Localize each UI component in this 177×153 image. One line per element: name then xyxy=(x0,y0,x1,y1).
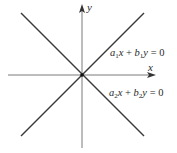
y-axis-label: y xyxy=(87,2,92,13)
rhs-1: = 0 xyxy=(148,47,164,58)
line-1-equation: a1x + b1y = 0 xyxy=(110,48,164,59)
plus-2: + xyxy=(122,87,133,98)
origin-point xyxy=(80,73,84,77)
x-axis-label: x xyxy=(148,62,153,73)
line-2-equation: a2x + b2y = 0 xyxy=(109,88,163,99)
rhs-2: = 0 xyxy=(147,87,163,98)
plus-1: + xyxy=(123,47,134,58)
diagram-canvas xyxy=(0,0,177,153)
